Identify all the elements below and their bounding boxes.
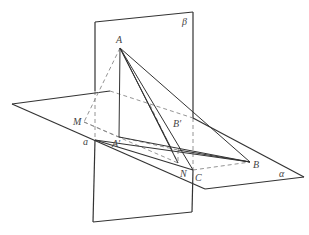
label-a: a bbox=[83, 136, 88, 147]
solid-lines bbox=[95, 48, 250, 170]
label-B: B bbox=[253, 159, 259, 170]
label-N: N bbox=[179, 168, 188, 179]
hidden-lines bbox=[84, 48, 250, 170]
label-M: M bbox=[72, 116, 82, 127]
label-B-prime: B′ bbox=[173, 118, 182, 129]
plane-beta bbox=[93, 12, 193, 222]
label-alpha: α bbox=[279, 168, 285, 179]
label-A-prime: A′ bbox=[111, 138, 121, 149]
label-A: A bbox=[115, 34, 123, 45]
label-C: C bbox=[195, 172, 202, 183]
label-beta: β bbox=[181, 16, 187, 27]
plane-alpha bbox=[12, 91, 304, 189]
geometry-diagram: β α a A A′ B B′ C M N bbox=[0, 0, 309, 235]
